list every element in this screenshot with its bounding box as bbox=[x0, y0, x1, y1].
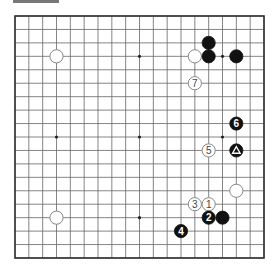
black-stone bbox=[202, 36, 215, 49]
black-stone bbox=[230, 50, 243, 63]
white-stone bbox=[230, 184, 243, 197]
star-point bbox=[138, 55, 141, 58]
move-number-label: 5 bbox=[206, 145, 212, 156]
go-board: 7653124 bbox=[0, 0, 279, 274]
move-number-label: 4 bbox=[178, 226, 184, 237]
white-stone bbox=[50, 50, 63, 63]
star-point bbox=[221, 135, 224, 138]
white-stone bbox=[50, 211, 63, 224]
star-point bbox=[55, 135, 58, 138]
white-stone bbox=[188, 50, 201, 63]
move-number-label: 3 bbox=[192, 199, 198, 210]
star-point bbox=[138, 216, 141, 219]
move-number-label: 1 bbox=[206, 199, 212, 210]
move-number-label: 7 bbox=[192, 78, 198, 89]
black-stone bbox=[216, 211, 229, 224]
black-stone bbox=[202, 50, 215, 63]
star-point bbox=[138, 135, 141, 138]
move-number-label: 2 bbox=[206, 212, 212, 223]
star-point bbox=[221, 55, 224, 58]
move-number-label: 6 bbox=[234, 118, 240, 129]
